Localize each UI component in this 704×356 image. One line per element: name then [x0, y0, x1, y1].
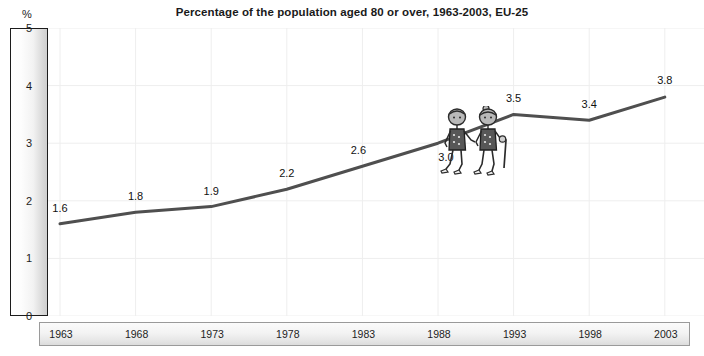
y-axis-unit-label: % [22, 8, 32, 20]
x-axis-tick-1993: 1993 [503, 328, 526, 340]
grid-lines [48, 28, 704, 316]
y-axis-panel [10, 28, 48, 316]
x-axis-tick-1978: 1978 [276, 328, 299, 340]
plot-area: 1.61.81.92.22.63.03.53.43.8 [48, 28, 704, 316]
data-label-1963: 1.6 [52, 202, 67, 214]
y-axis-tick-0: 0 [10, 310, 48, 322]
x-axis-tick-1968: 1968 [125, 328, 148, 340]
data-label-1978: 2.2 [279, 167, 294, 179]
data-label-1968: 1.8 [128, 190, 143, 202]
line-chart-svg [48, 28, 704, 316]
data-label-1973: 1.9 [204, 185, 219, 197]
x-axis-tick-1988: 1988 [427, 328, 450, 340]
y-axis-tick-2: 2 [10, 195, 48, 207]
y-axis-tick-5: 5 [10, 22, 48, 34]
y-axis-tick-1: 1 [10, 252, 48, 264]
two-elderly-people-walking-uphill-illustration [438, 106, 520, 186]
data-label-1993: 3.5 [506, 92, 521, 104]
data-label-1998: 3.4 [582, 98, 597, 110]
x-axis-panel: 196319681973197819831988199319982003 [39, 322, 690, 346]
data-label-1983: 2.6 [351, 144, 366, 156]
page-title: Percentage of the population aged 80 or … [0, 6, 704, 18]
elderly-person-front-figure [441, 109, 475, 174]
elderly-person-back-figure [474, 106, 506, 175]
x-axis-tick-1998: 1998 [579, 328, 602, 340]
chart-screenshot: Percentage of the population aged 80 or … [0, 0, 704, 356]
x-axis-tick-2003: 2003 [654, 328, 677, 340]
y-axis-tick-4: 4 [10, 80, 48, 92]
x-axis-tick-1963: 1963 [49, 328, 72, 340]
x-axis-tick-1973: 1973 [201, 328, 224, 340]
data-label-2003: 3.8 [657, 74, 672, 86]
x-axis-tick-1983: 1983 [352, 328, 375, 340]
y-axis-tick-3: 3 [10, 137, 48, 149]
